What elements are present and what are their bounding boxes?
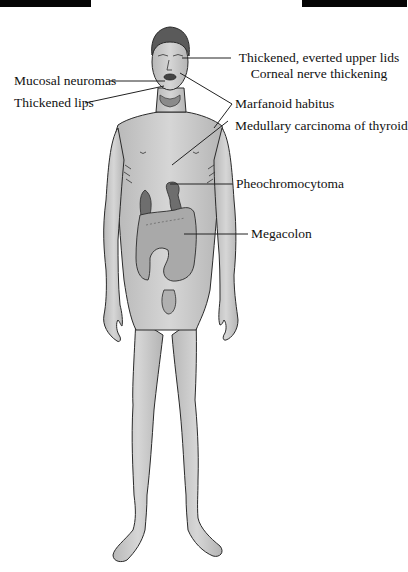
right-leg xyxy=(113,318,163,562)
genitals xyxy=(162,290,176,314)
label-corneal: Corneal nerve thickening xyxy=(234,66,404,82)
label-medullary-thyroid: Medullary carcinoma of thyroid xyxy=(235,118,408,134)
left-leg xyxy=(172,318,222,556)
lips xyxy=(164,74,176,80)
label-thickened-lips: Thickened lips xyxy=(14,95,94,111)
label-eyelids: Thickened, everted upper lids xyxy=(234,50,404,66)
label-pheochromocytoma: Pheochromocytoma xyxy=(236,176,344,192)
megacolon xyxy=(136,208,196,281)
label-marfanoid-habitus: Marfanoid habitus xyxy=(235,96,334,112)
label-megacolon: Megacolon xyxy=(251,226,312,242)
label-mucosal-neuromas: Mucosal neuromas xyxy=(14,73,116,89)
